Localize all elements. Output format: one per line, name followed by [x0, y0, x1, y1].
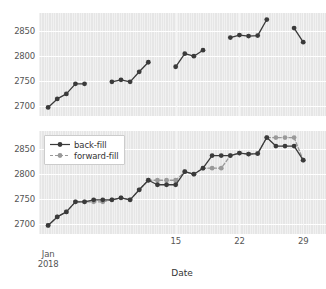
observed-marker [146, 60, 151, 65]
observed-marker [119, 77, 124, 82]
observed-marker [46, 105, 51, 110]
legend-label-forward-fill: forward-fill [74, 151, 119, 161]
back-fill-marker [264, 135, 269, 140]
figure-canvas: 2700275028002850 back-fill forward-fill [0, 0, 326, 289]
back-fill-marker [201, 166, 206, 171]
observed-marker [64, 91, 69, 96]
top-series-layer [39, 13, 326, 116]
back-fill-marker [182, 169, 187, 174]
forward-fill-marker [219, 166, 224, 171]
x-minor-label-year: 2018 [38, 260, 59, 270]
legend-swatch-back-fill [49, 140, 71, 149]
bottom-chart-panel: back-fill forward-fill [39, 131, 326, 234]
observed-marker [137, 69, 142, 74]
back-fill-marker [228, 153, 233, 158]
back-fill-marker [73, 199, 78, 204]
observed-marker [109, 79, 114, 84]
observed-seg2-line [176, 50, 203, 67]
back-fill-marker [292, 144, 297, 149]
back-fill-marker [100, 197, 105, 202]
legend[interactable]: back-fill forward-fill [44, 135, 125, 165]
legend-item-back-fill[interactable]: back-fill [49, 139, 119, 150]
y-tick-label-2800: 2800 [14, 169, 35, 179]
legend-swatch-forward-fill [49, 151, 71, 160]
back-fill-marker [119, 195, 124, 200]
y-tick-label-2750: 2750 [14, 76, 35, 86]
y-tick-label-2850: 2850 [14, 26, 35, 36]
back-fill-marker [237, 151, 242, 156]
top-chart-panel [39, 13, 326, 116]
back-fill-marker [191, 172, 196, 177]
y-tick-label-2800: 2800 [14, 51, 35, 61]
y-tick-label-2700: 2700 [14, 219, 35, 229]
x-axis-title: Date [171, 268, 193, 278]
forward-fill-marker [292, 135, 297, 140]
back-fill-marker [246, 152, 251, 157]
back-fill-marker [219, 153, 224, 158]
back-fill-marker [255, 151, 260, 156]
back-fill-marker [137, 187, 142, 192]
observed-seg4-line [294, 28, 303, 42]
y-tick-label-2850: 2850 [14, 144, 35, 154]
observed-marker [55, 97, 60, 102]
observed-marker [264, 17, 269, 22]
back-fill-marker [273, 144, 278, 149]
back-fill-marker [210, 153, 215, 158]
observed-marker [128, 79, 133, 84]
observed-marker [73, 81, 78, 86]
back-fill-marker [91, 197, 96, 202]
observed-marker [191, 54, 196, 59]
observed-marker [228, 35, 233, 40]
back-fill-marker [164, 182, 169, 187]
back-fill-marker [82, 199, 87, 204]
forward-fill-marker [164, 178, 169, 183]
y-tick-label-2700: 2700 [14, 101, 35, 111]
forward-fill-marker [155, 178, 160, 183]
y-tick-label-2750: 2750 [14, 194, 35, 204]
x-tick-label-29: 29 [298, 236, 308, 246]
back-fill-marker [173, 182, 178, 187]
back-fill-marker [55, 215, 60, 220]
observed-marker [201, 48, 206, 53]
x-minor-label-jan-2018: Jan2018 [38, 250, 59, 269]
observed-marker [292, 26, 297, 31]
back-fill-marker [301, 158, 306, 163]
observed-marker [173, 64, 178, 69]
observed-marker [237, 33, 242, 38]
back-fill-marker [64, 209, 69, 214]
back-fill-marker [155, 182, 160, 187]
forward-fill-marker [283, 135, 288, 140]
observed-seg1-line [112, 62, 148, 82]
back-fill-marker [128, 197, 133, 202]
back-fill-marker [109, 197, 114, 202]
forward-fill-marker [273, 135, 278, 140]
observed-marker [82, 81, 87, 86]
observed-marker [246, 34, 251, 39]
legend-item-forward-fill[interactable]: forward-fill [49, 150, 119, 161]
x-tick-label-15: 15 [170, 236, 180, 246]
legend-label-back-fill: back-fill [74, 140, 106, 150]
back-fill-marker [46, 223, 51, 228]
observed-marker [255, 33, 260, 38]
back-fill-marker [283, 144, 288, 149]
observed-marker [301, 40, 306, 45]
observed-marker [182, 51, 187, 56]
forward-fill-marker [210, 166, 215, 171]
back-fill-marker [146, 178, 151, 183]
x-tick-label-22: 22 [234, 236, 244, 246]
